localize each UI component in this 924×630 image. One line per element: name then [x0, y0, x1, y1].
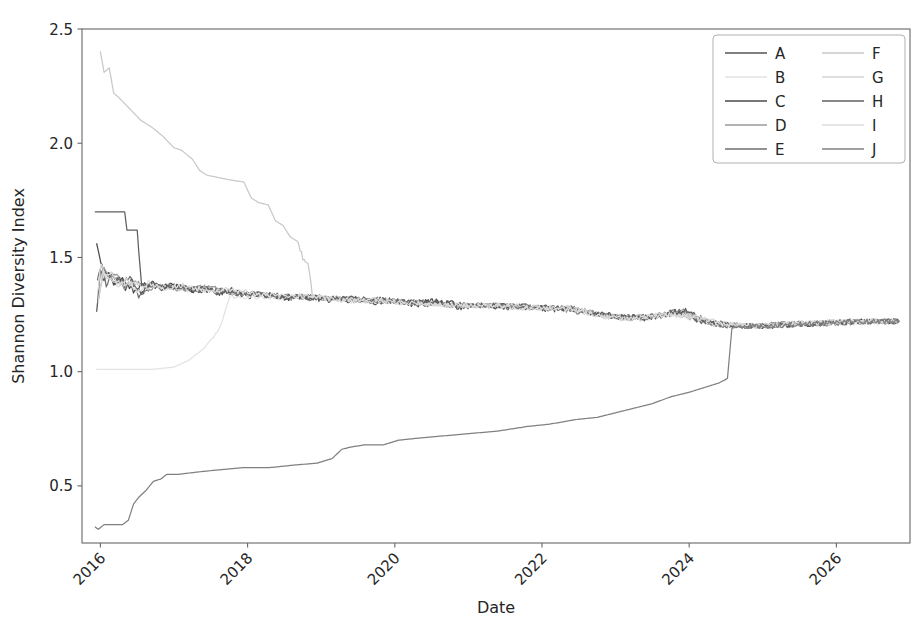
- legend-label-E: E: [775, 141, 784, 159]
- legend-label-I: I: [872, 117, 876, 135]
- y-tick-label: 1.5: [49, 249, 73, 267]
- legend-label-A: A: [775, 45, 786, 63]
- series-line-G: [98, 271, 899, 327]
- chart-figure: 0.51.01.52.02.5201620182020202220242026D…: [0, 0, 924, 630]
- legend-label-D: D: [775, 117, 787, 135]
- y-axis-title: Shannon Diversity Index: [9, 188, 28, 384]
- legend-label-C: C: [775, 93, 785, 111]
- y-axis-ticks: 0.51.01.52.02.5: [49, 21, 82, 496]
- series-line-I: [97, 264, 899, 328]
- x-tick-label: 2016: [69, 549, 109, 589]
- legend-label-G: G: [872, 69, 884, 87]
- x-tick-label: 2024: [658, 549, 698, 589]
- series-line-H: [95, 212, 899, 329]
- y-tick-label: 2.0: [49, 135, 73, 153]
- legend-label-B: B: [775, 69, 785, 87]
- series-line-D: [99, 267, 899, 328]
- x-axis-title: Date: [477, 598, 515, 617]
- series-line-J: [95, 319, 899, 529]
- line-chart-canvas: 0.51.01.52.02.5201620182020202220242026D…: [0, 0, 924, 630]
- legend-label-F: F: [872, 45, 881, 63]
- x-tick-label: 2020: [364, 549, 404, 589]
- legend-label-J: J: [871, 141, 876, 159]
- x-tick-label: 2018: [217, 549, 257, 589]
- series-line-C: [97, 244, 899, 329]
- y-tick-label: 2.5: [49, 21, 73, 39]
- chart-legend: ABCDEFGHIJ: [713, 35, 905, 163]
- series-line-E: [97, 264, 899, 328]
- x-tick-label: 2022: [511, 549, 551, 589]
- series-line-A: [97, 270, 899, 328]
- y-tick-label: 0.5: [49, 477, 73, 495]
- x-axis-ticks: 201620182020202220242026: [69, 543, 845, 589]
- y-tick-label: 1.0: [49, 363, 73, 381]
- x-tick-label: 2026: [805, 549, 845, 589]
- legend-label-H: H: [872, 93, 883, 111]
